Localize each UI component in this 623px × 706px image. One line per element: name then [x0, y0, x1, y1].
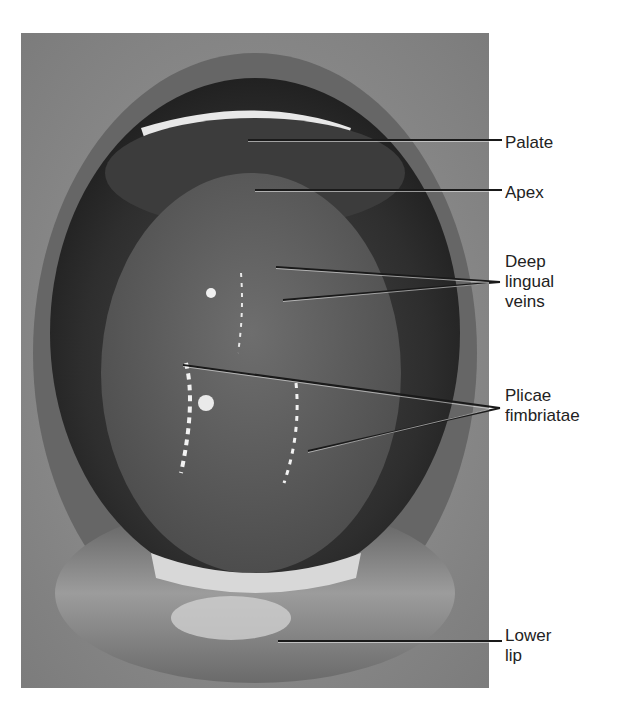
label-text: Apex [505, 183, 544, 203]
label-text: lip [505, 646, 551, 666]
label-text: Deep [505, 252, 554, 272]
label-text: lingual [505, 272, 554, 292]
label-lower-lip: Lower lip [505, 626, 551, 666]
label-text: fimbriatae [505, 406, 580, 426]
label-text: Lower [505, 626, 551, 646]
label-text: veins [505, 292, 554, 312]
leader-line-deep-lingual-veins-1 [276, 267, 500, 282]
leader-line-deep-lingual-veins-2 [283, 282, 500, 300]
label-apex: Apex [505, 183, 544, 203]
leader-lines [0, 0, 623, 706]
label-plicae-fimbriatae: Plicae fimbriatae [505, 386, 580, 426]
leader-line-plicae-fimbriatae-1 [183, 365, 500, 408]
label-text: Palate [505, 133, 553, 153]
label-text: Plicae [505, 386, 580, 406]
label-palate: Palate [505, 133, 553, 153]
label-deep-lingual-veins: Deep lingual veins [505, 252, 554, 312]
